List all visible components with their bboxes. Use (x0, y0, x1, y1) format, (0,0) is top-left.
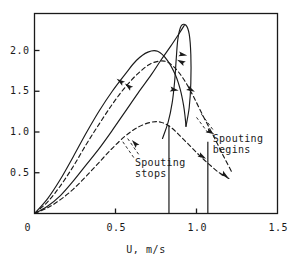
x-tick-label-3: 1.5 (269, 222, 289, 233)
annotation-spouting-begins: Spouting begins (213, 133, 264, 155)
chart-figure: 00.51.01.50.51.01.52.0Spouting stopsSpou… (0, 0, 301, 272)
annotation-spouting-stops: Spouting stops (135, 157, 186, 179)
y-tick-label-0: 0.5 (5, 167, 30, 178)
y-tick-label-3: 2.0 (5, 45, 30, 56)
x-tick-label-1: 0.5 (107, 222, 127, 233)
x-tick-label-2: 1.0 (188, 222, 208, 233)
y-tick-label-1: 1.0 (5, 126, 30, 137)
x-axis-title: U, m/s (126, 244, 166, 255)
y-tick-label-2: 1.5 (5, 85, 30, 96)
x-tick-label-0: 0 (25, 222, 32, 233)
